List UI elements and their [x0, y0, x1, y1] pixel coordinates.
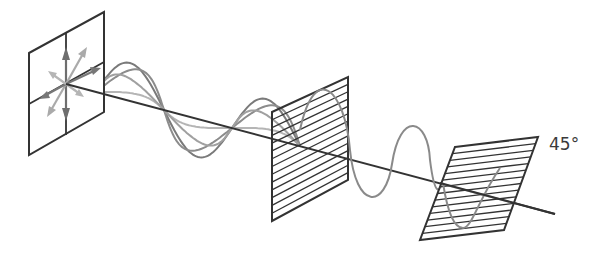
- angle-label: 45°: [549, 134, 579, 154]
- polarization-diagram: 45°: [0, 0, 601, 260]
- polarized-wave: [300, 90, 443, 197]
